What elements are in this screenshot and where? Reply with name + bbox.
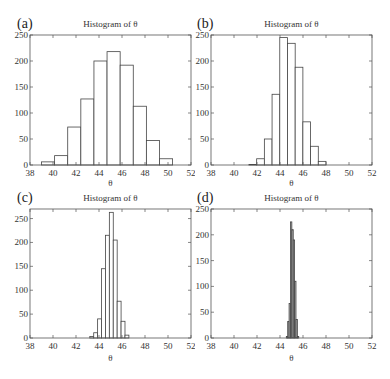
svg-text:46: 46 [299, 168, 309, 178]
svg-text:50: 50 [19, 134, 29, 144]
x-axis-label: θ [30, 353, 191, 363]
svg-text:52: 52 [368, 341, 377, 351]
histogram-plot: 3840424446485052050100150200250 [195, 0, 390, 190]
svg-text:150: 150 [15, 261, 29, 271]
histogram-bar [133, 106, 146, 165]
svg-text:0: 0 [205, 160, 210, 170]
svg-text:42: 42 [72, 341, 81, 351]
svg-text:100: 100 [15, 108, 29, 118]
svg-text:42: 42 [253, 168, 262, 178]
x-axis-label: θ [211, 178, 372, 188]
svg-text:150: 150 [15, 82, 29, 92]
histogram-bar [55, 156, 68, 165]
svg-text:44: 44 [276, 341, 286, 351]
svg-text:44: 44 [95, 341, 105, 351]
histogram-bar [295, 67, 303, 165]
x-axis-label: θ [30, 178, 191, 188]
svg-text:42: 42 [72, 168, 81, 178]
svg-text:0: 0 [205, 333, 210, 343]
svg-text:200: 200 [15, 237, 29, 247]
svg-text:48: 48 [322, 341, 332, 351]
svg-text:40: 40 [230, 341, 240, 351]
svg-text:48: 48 [141, 341, 151, 351]
svg-text:50: 50 [345, 168, 355, 178]
histogram-bar [68, 127, 81, 165]
histogram-bar [113, 240, 117, 338]
histogram-bar [94, 333, 98, 338]
histogram-bar [109, 212, 113, 338]
histogram-bar [94, 61, 107, 165]
svg-text:100: 100 [196, 281, 210, 291]
svg-text:52: 52 [187, 341, 196, 351]
svg-text:44: 44 [276, 168, 286, 178]
svg-text:40: 40 [49, 168, 59, 178]
svg-text:52: 52 [368, 168, 377, 178]
svg-text:42: 42 [253, 341, 262, 351]
svg-text:48: 48 [322, 168, 332, 178]
panel-b: (b) Histogram of θ 384042444648505205010… [195, 0, 390, 190]
histogram-bar [318, 161, 326, 165]
histogram-plot: 3840424446485052050100150200250 [0, 0, 195, 190]
histogram-bar [272, 94, 280, 165]
histogram-bar [117, 301, 121, 338]
histogram-bar [296, 319, 297, 338]
histogram-bar [303, 122, 311, 165]
svg-text:250: 250 [196, 30, 210, 40]
svg-text:48: 48 [141, 168, 151, 178]
histogram-bar [98, 319, 102, 338]
svg-text:0: 0 [24, 333, 29, 343]
svg-text:50: 50 [19, 309, 29, 319]
histogram-bar [280, 38, 288, 165]
histogram-bar [311, 146, 319, 165]
histogram-bar [42, 162, 55, 165]
histogram-bar [287, 43, 295, 165]
svg-text:40: 40 [230, 168, 240, 178]
histogram-bar [105, 235, 109, 338]
histogram-plot: 3840424446485052050100150200250 [195, 190, 390, 379]
svg-text:50: 50 [164, 341, 174, 351]
panel-a: (a) Histogram of θ 384042444648505205010… [0, 0, 195, 190]
svg-text:50: 50 [345, 341, 355, 351]
histogram-plot: 3840424446485052050100150200250 [0, 190, 195, 379]
svg-text:46: 46 [118, 168, 128, 178]
histogram-bar [159, 159, 172, 165]
svg-text:40: 40 [49, 341, 59, 351]
histogram-bar [264, 139, 272, 165]
svg-text:100: 100 [196, 108, 210, 118]
svg-text:200: 200 [196, 56, 210, 66]
histogram-bar [102, 269, 106, 338]
svg-text:52: 52 [187, 168, 196, 178]
histogram-bar [107, 52, 120, 165]
svg-text:250: 250 [15, 30, 29, 40]
panel-d: (d) Histogram of θ 384042444648505205010… [195, 190, 390, 379]
x-axis-label: θ [211, 353, 372, 363]
svg-text:250: 250 [196, 204, 210, 214]
svg-text:46: 46 [118, 341, 128, 351]
svg-text:200: 200 [15, 56, 29, 66]
svg-text:200: 200 [196, 230, 210, 240]
svg-text:0: 0 [24, 160, 29, 170]
histogram-bar [146, 141, 159, 165]
svg-text:250: 250 [15, 214, 29, 224]
svg-text:50: 50 [200, 307, 210, 317]
svg-text:150: 150 [196, 256, 210, 266]
svg-text:150: 150 [196, 82, 210, 92]
histogram-bar [120, 65, 133, 165]
svg-text:100: 100 [15, 285, 29, 295]
svg-text:50: 50 [164, 168, 174, 178]
histogram-bar [257, 159, 265, 165]
svg-text:44: 44 [95, 168, 105, 178]
panel-c: (c) Histogram of θ 384042444648505205010… [0, 190, 195, 379]
svg-text:50: 50 [200, 134, 210, 144]
histogram-bar [125, 335, 129, 338]
svg-text:46: 46 [299, 341, 309, 351]
histogram-bar [81, 99, 94, 165]
